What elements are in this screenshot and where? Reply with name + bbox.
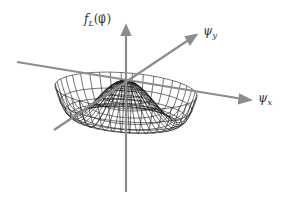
y-axis-arrowhead bbox=[186, 35, 196, 44]
y-axis-label: ψy bbox=[203, 25, 217, 40]
vertical-axis-arrowhead bbox=[122, 26, 130, 35]
potential-diagram bbox=[0, 0, 290, 217]
x-axis-label: ψx bbox=[258, 92, 272, 107]
vertical-axis-label: fL(ψ⃗) bbox=[84, 13, 111, 28]
x-axis-arrowhead bbox=[239, 95, 250, 103]
